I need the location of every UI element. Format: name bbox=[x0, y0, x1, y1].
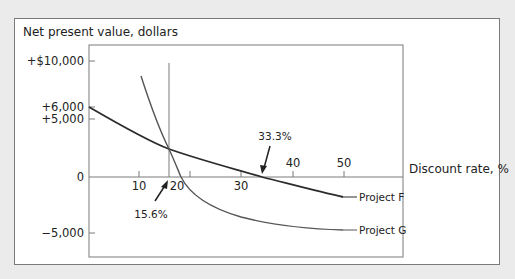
x-tick-label-10: 10 bbox=[132, 179, 147, 193]
x-tick-label-20: 20 bbox=[170, 179, 185, 193]
y-axis-title: Net present value, dollars bbox=[23, 25, 178, 39]
project-g-label: Project G bbox=[359, 224, 406, 236]
irr-f-arrow-head bbox=[260, 165, 267, 174]
npv-profile-chart: Net present value, dollars +$10,000 +6,0… bbox=[0, 0, 515, 279]
x-axis-title: Discount rate, % bbox=[409, 162, 509, 176]
crossover-label: 15.6% bbox=[134, 208, 167, 220]
project-f-line bbox=[89, 107, 343, 197]
irr-f-arrow bbox=[264, 146, 270, 168]
plot-area bbox=[89, 45, 403, 257]
project-f-label: Project F bbox=[359, 191, 404, 203]
y-tick-label-neg5000: −5,000 bbox=[41, 226, 84, 240]
x-tick-label-40: 40 bbox=[286, 156, 301, 170]
x-tick-label-30: 30 bbox=[234, 179, 249, 193]
y-tick-label-10000: +$10,000 bbox=[27, 54, 84, 68]
y-tick-label-0: 0 bbox=[77, 170, 84, 184]
y-ticks bbox=[89, 61, 95, 233]
x-tick-label-50: 50 bbox=[337, 156, 352, 170]
crossover-arrow-head bbox=[161, 180, 168, 189]
y-tick-label-5000: +5,000 bbox=[41, 112, 84, 126]
project-g-line bbox=[141, 76, 343, 230]
irr-f-label: 33.3% bbox=[258, 130, 291, 142]
